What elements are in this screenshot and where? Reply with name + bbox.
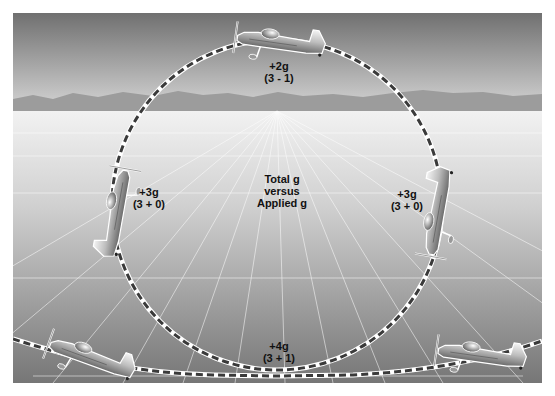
label-left-g: +3g [119, 186, 179, 198]
label-bottom: +4g (3 + 1) [249, 340, 309, 364]
label-left-formula: (3 + 0) [119, 198, 179, 210]
label-bottom-formula: (3 + 1) [249, 352, 309, 364]
label-right-g: +3g [377, 188, 437, 200]
label-center: Total g versus Applied g [247, 173, 317, 209]
label-right: +3g (3 + 0) [377, 188, 437, 212]
label-right-formula: (3 + 0) [377, 200, 437, 212]
label-left: +3g (3 + 0) [119, 186, 179, 210]
label-top-formula: (3 - 1) [249, 72, 309, 84]
diagram-frame: +2g (3 - 1) +3g (3 + 0) +3g (3 + 0) Tota… [13, 13, 542, 383]
label-bottom-g: +4g [249, 340, 309, 352]
label-center-line1: Total g [247, 173, 317, 185]
label-top-g: +2g [249, 60, 309, 72]
label-center-line2: versus [247, 185, 317, 197]
label-top: +2g (3 - 1) [249, 60, 309, 84]
label-center-line3: Applied g [247, 197, 317, 209]
